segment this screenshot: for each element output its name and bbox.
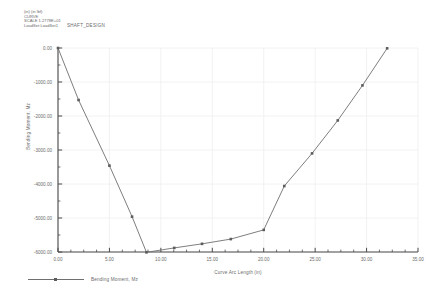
x-axis-tick-label: 35.00: [412, 257, 424, 262]
data-point-marker: [262, 229, 265, 232]
data-point-marker: [145, 251, 148, 254]
x-axis-tick-label: 10.00: [155, 257, 167, 262]
x-axis-tick-label: 30.00: [361, 257, 373, 262]
y-axis-title: Bending Moment, Mz: [26, 103, 31, 150]
y-axis-tick-label: -2000.00: [8, 114, 52, 119]
data-point-marker: [311, 152, 314, 155]
header-loadset-row: LoadSet:LoadSet1 SHAFT_DESIGN: [24, 24, 105, 29]
x-axis-tick-label: 5.00: [105, 257, 114, 262]
x-axis-tick-label: 25.00: [309, 257, 321, 262]
x-axis-tick-label: 20.00: [258, 257, 270, 262]
data-point-marker: [230, 238, 233, 241]
y-axis-tick-label: -5000.00: [8, 216, 52, 221]
plot-header-annotation: (in) (in lbf) CURVE SCALE 1.2778E+01 Loa…: [24, 10, 105, 28]
data-polyline: [58, 48, 387, 252]
x-axis-tick-label: 0.00: [54, 257, 63, 262]
data-point-marker: [131, 215, 134, 218]
data-curve-layer[interactable]: [58, 48, 418, 252]
data-point-marker: [173, 247, 176, 250]
y-axis-tick-label: -6000.00: [8, 250, 52, 255]
x-axis-title: Curve Arc Length (in): [214, 270, 261, 275]
y-axis-tick-label: -1000.00: [8, 80, 52, 85]
legend-square-marker: [54, 278, 57, 281]
data-point-marker: [201, 243, 204, 246]
legend-swatch: [28, 277, 84, 282]
legend-label: Bending Moment, Mz: [91, 277, 138, 282]
x-axis-tick-label: 15.00: [207, 257, 219, 262]
data-point-marker: [77, 99, 80, 102]
header-loadset-label: LoadSet:LoadSet1: [24, 24, 58, 29]
chart-legend: Bending Moment, Mz: [28, 277, 138, 282]
data-point-marker: [361, 84, 364, 87]
data-point-marker: [57, 47, 60, 50]
plot-area: [58, 48, 418, 252]
data-point-marker: [336, 119, 339, 122]
data-point-marker: [283, 185, 286, 188]
data-point-marker: [108, 164, 111, 167]
y-axis-tick-label: 0.00: [8, 46, 52, 51]
data-point-marker: [386, 47, 389, 50]
y-axis-tick-label: -3000.00: [8, 148, 52, 153]
y-axis-tick-label: -4000.00: [8, 182, 52, 187]
page-title: SHAFT_DESIGN: [67, 24, 105, 29]
